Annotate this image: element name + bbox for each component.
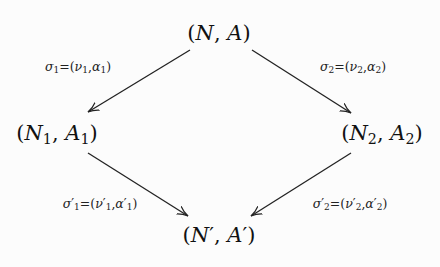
node-n-a-var2: A — [227, 21, 242, 45]
edge-label-sigma2-prime: σ′2=(ν′2,α′2) — [313, 196, 388, 212]
edge-label-sigma2: σ2=(ν2,α2) — [320, 59, 386, 75]
alpha-symbol: α — [365, 196, 373, 211]
node-n2-a2: (N2, A2) — [341, 121, 422, 147]
node-nprime-prime1: ′ — [209, 223, 214, 247]
sigma-index: 2 — [329, 65, 335, 75]
sigma-symbol: σ — [313, 196, 322, 211]
node-n2-a2-sub1: 2 — [368, 131, 377, 147]
node-n1-a1-var2: A — [65, 121, 80, 145]
commutative-diagram: (N, A) (N1, A1) (N2, A2) (N′, A′) σ1=(ν1… — [0, 0, 440, 267]
nu-symbol: ν — [345, 196, 353, 211]
alpha-index: 2 — [377, 202, 383, 212]
node-n1-a1-sub1: 1 — [43, 131, 52, 147]
sigma-index: 1 — [74, 202, 80, 212]
node-nprime-var1: N — [191, 223, 209, 247]
nu-symbol: ν — [95, 196, 103, 211]
alpha-index: 1 — [100, 65, 106, 75]
nu-index: 2 — [357, 65, 363, 75]
alpha-index: 2 — [375, 65, 381, 75]
node-n1-a1-sub2: 1 — [80, 131, 89, 147]
nu-index: 2 — [356, 202, 362, 212]
node-n2-a2-sub2: 2 — [405, 131, 414, 147]
node-nprime-aprime: (N′, A′) — [183, 223, 256, 247]
node-n1-a1-var1: N — [24, 121, 42, 145]
edge-label-sigma1-prime: σ′1=(ν′1,α′1) — [63, 196, 138, 212]
node-n2-a2-var2: A — [390, 121, 405, 145]
sigma-symbol: σ — [45, 59, 54, 74]
alpha-index: 1 — [127, 202, 133, 212]
sigma-symbol: σ — [320, 59, 329, 74]
nu-index: 1 — [82, 65, 88, 75]
node-aprime-prime2: ′ — [242, 223, 247, 247]
node-n1-a1: (N1, A1) — [16, 121, 97, 147]
sigma-index: 2 — [324, 202, 330, 212]
node-n-a: (N, A) — [187, 21, 250, 45]
sigma-index: 1 — [54, 65, 60, 75]
node-n2-a2-var1: N — [349, 121, 367, 145]
edge-label-sigma1: σ1=(ν1,α1) — [45, 59, 111, 75]
node-n-a-var1: N — [196, 21, 214, 45]
alpha-symbol: α — [115, 196, 123, 211]
sigma-symbol: σ — [63, 196, 72, 211]
node-aprime-var2: A — [227, 223, 242, 247]
nu-index: 1 — [106, 202, 112, 212]
